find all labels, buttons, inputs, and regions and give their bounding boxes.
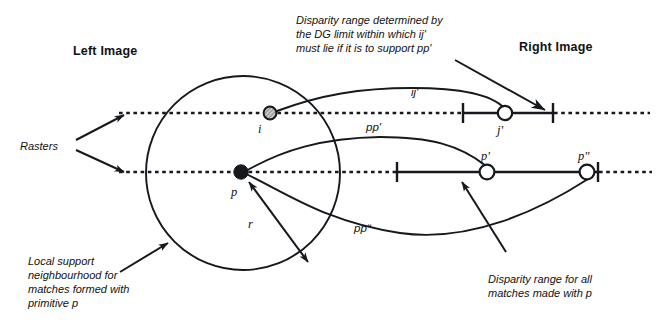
local-support-line-4: primitive p bbox=[27, 297, 78, 309]
local-support-arrow bbox=[120, 243, 168, 272]
match-curves-group bbox=[244, 88, 588, 235]
label-point-p-prime: p' bbox=[480, 149, 490, 163]
label-point-i: i bbox=[258, 122, 262, 136]
rasters-arrow-lower bbox=[76, 150, 124, 172]
local-support-line-1: Local support bbox=[28, 255, 95, 267]
disparity-ij-line-3: must lie if it is to support pp' bbox=[296, 42, 432, 54]
right-image-title: Right Image bbox=[519, 40, 593, 54]
local-support-line-2: neighbourhood for bbox=[28, 269, 119, 281]
label-curve-ij-prime: ij' bbox=[411, 86, 419, 98]
local-support-line-3: matches formed with bbox=[28, 283, 129, 295]
raster-lines-group bbox=[119, 103, 652, 182]
disparity-all-arrow bbox=[462, 182, 506, 252]
label-point-p-double-prime: pʺ bbox=[577, 149, 590, 163]
local-support-caption: Local support neighbourhood for matches … bbox=[27, 255, 129, 309]
label-point-p: p bbox=[230, 185, 237, 199]
point-p-prime-marker[interactable] bbox=[480, 165, 495, 180]
curve-pp-prime bbox=[244, 137, 486, 172]
feature-points-group bbox=[234, 106, 595, 180]
radius-arrow bbox=[249, 182, 308, 262]
point-p-double-prime-marker[interactable] bbox=[580, 165, 595, 180]
rasters-arrow-upper bbox=[76, 115, 124, 140]
label-curve-pp-prime: pp' bbox=[365, 121, 382, 133]
label-radius-r: r bbox=[248, 217, 253, 231]
rasters-label: Rasters bbox=[20, 140, 58, 152]
disparity-all-line-1: Disparity range for all bbox=[488, 273, 592, 285]
point-j-prime-marker[interactable] bbox=[498, 106, 512, 120]
label-point-j-prime: j' bbox=[495, 123, 503, 137]
label-curve-pp-double-prime: ppʺ bbox=[353, 222, 372, 234]
point-i-marker[interactable] bbox=[264, 107, 277, 120]
disparity-ij-line-2: the DG limit within which ij' bbox=[296, 28, 427, 40]
diagram-canvas: Left Image Right Image Disparity range d… bbox=[0, 0, 659, 323]
disparity-ij-line-1: Disparity range determined by bbox=[296, 14, 444, 26]
disparity-ij-caption: Disparity range determined by the DG lim… bbox=[296, 14, 444, 54]
curve-pp-double-prime bbox=[244, 173, 588, 235]
stereo-matching-diagram: Left Image Right Image Disparity range d… bbox=[0, 0, 659, 323]
left-image-title: Left Image bbox=[73, 44, 138, 58]
disparity-ij-arrow bbox=[455, 60, 545, 110]
curve-ij-prime bbox=[277, 88, 504, 111]
point-p-marker[interactable] bbox=[234, 165, 248, 179]
disparity-all-caption: Disparity range for all matches made wit… bbox=[488, 273, 592, 299]
disparity-all-line-2: matches made with p bbox=[488, 287, 592, 299]
